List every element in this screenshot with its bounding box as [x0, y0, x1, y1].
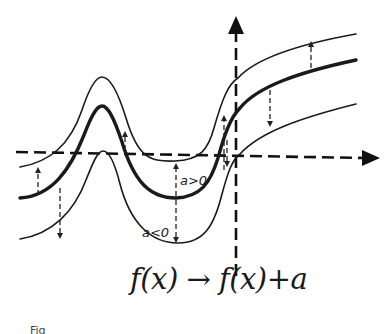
shift-formula: f(x) → f(x)+a — [130, 262, 307, 296]
shift-arrows — [38, 44, 311, 240]
formula-rhs: f(x)+a — [219, 262, 307, 296]
label-a-negative: a<0 — [142, 225, 169, 240]
x-axis-arrow-icon — [362, 150, 380, 166]
figure-caption-fragment: Fig — [30, 323, 46, 334]
y-axis-arrow-icon — [228, 16, 244, 34]
y-axis — [228, 16, 244, 276]
formula-arrow-icon: → — [186, 262, 210, 296]
formula-lhs: f(x) — [130, 262, 178, 296]
curve-shifted-up — [20, 34, 356, 167]
label-a-positive: a>0 — [180, 173, 207, 188]
